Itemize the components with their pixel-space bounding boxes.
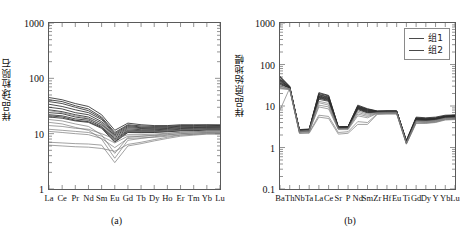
figure-geochemistry-diagrams: 样品/球粒陨石 1101001000 LaCePrNdSmEuGdTbDyHoE… — [0, 0, 467, 244]
x-tick-label: Lu — [450, 193, 459, 203]
x-tick-label: Eu — [392, 193, 401, 203]
x-tick-label: Zr — [373, 193, 381, 203]
x-tick-label: Ce — [324, 193, 333, 203]
panel-a-y-axis-title: 样品/球粒陨石 — [2, 58, 12, 121]
panel-a-series-canvas — [49, 23, 220, 189]
legend-line-icon-group1 — [409, 38, 424, 39]
panel-b-caption: (b) — [233, 215, 467, 226]
x-tick-label: Sr — [335, 193, 343, 203]
legend-label-group2: 组2 — [428, 44, 443, 56]
x-tick-label: Sm — [96, 193, 107, 203]
x-tick-label: Ho — [162, 193, 172, 203]
x-tick-label: Nd — [83, 193, 93, 203]
y-tick-label: 0.1 — [233, 184, 275, 195]
x-tick-label: Hf — [382, 193, 391, 203]
x-tick-label: Tm — [188, 193, 200, 203]
legend-item-group1: 组1 — [409, 32, 443, 44]
legend-item-group2: 组2 — [409, 44, 443, 56]
x-tick-label: Gd — [123, 193, 133, 203]
panel-a: 样品/球粒陨石 1101001000 LaCePrNdSmEuGdTbDyHoE… — [0, 0, 233, 244]
x-tick-label: Yb — [202, 193, 212, 203]
x-tick-label: La — [45, 193, 54, 203]
x-tick-label: Ti — [403, 193, 410, 203]
panel-b-plot-area: 组1 组2 — [279, 22, 456, 190]
x-tick-label: Ba — [275, 193, 284, 203]
panel-a-x-tick-labels: LaCePrNdSmEuGdTbDyHoErTmYbLu — [48, 193, 221, 207]
x-tick-label: Th — [285, 193, 294, 203]
panel-b-legend: 组1 组2 — [404, 28, 450, 60]
y-tick-label: 1000 — [0, 18, 44, 29]
x-tick-label: Eu — [110, 193, 119, 203]
x-tick-label: Er — [177, 193, 185, 203]
x-tick-label: Ta — [305, 193, 313, 203]
panel-b: 样品/原始地幔 组1 组2 0.11101001000 BaThNbTaLaCe… — [233, 0, 467, 244]
legend-line-icon-group2 — [409, 50, 424, 51]
x-tick-label: Y — [432, 193, 438, 203]
panel-a-caption: (a) — [0, 215, 233, 226]
x-tick-label: Nb — [294, 193, 304, 203]
y-tick-label: 1 — [0, 184, 44, 195]
x-tick-label: La — [314, 193, 323, 203]
y-tick-label: 100 — [233, 59, 275, 70]
panel-b-x-tick-labels: BaThNbTaLaCeSrPNdSmZrHfEuTiGdDyYYbLu — [279, 193, 456, 207]
x-tick-label: Dy — [421, 193, 431, 203]
legend-label-group1: 组1 — [428, 32, 443, 44]
x-tick-label: P — [346, 193, 351, 203]
y-tick-label: 10 — [233, 101, 275, 112]
x-tick-label: Sm — [362, 193, 373, 203]
x-tick-label: Dy — [149, 193, 159, 203]
y-tick-label: 100 — [0, 73, 44, 84]
x-tick-label: Lu — [215, 193, 224, 203]
y-tick-label: 1000 — [233, 18, 275, 29]
panel-a-plot-area — [48, 22, 221, 190]
y-tick-label: 1 — [233, 142, 275, 153]
x-tick-label: Yb — [440, 193, 450, 203]
x-tick-label: Ce — [57, 193, 66, 203]
y-tick-label: 10 — [0, 128, 44, 139]
x-tick-label: Pr — [72, 193, 80, 203]
x-tick-label: Tb — [136, 193, 145, 203]
